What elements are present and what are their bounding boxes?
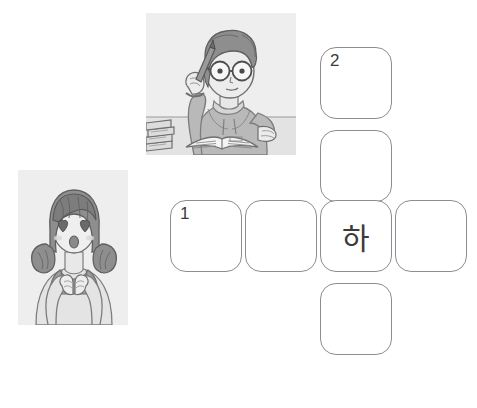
crossword-cell-vertical-2[interactable]: [320, 130, 392, 202]
crossword-cell-horizontal-4[interactable]: [395, 200, 467, 272]
crossword-cell-center-filled[interactable]: 하: [320, 200, 392, 272]
crossword-cell-vertical-4[interactable]: [320, 283, 392, 355]
cell-letter: [246, 201, 316, 271]
cell-letter: [321, 48, 391, 118]
cell-letter: [321, 131, 391, 201]
crossword-cell-horizontal-2[interactable]: [245, 200, 317, 272]
crossword-cell-1-across-start[interactable]: 1: [170, 200, 242, 272]
cell-letter: [396, 201, 466, 271]
illustration-girl-heart-eyes: [18, 170, 128, 325]
cell-letter: [321, 284, 391, 354]
cell-letter: 하: [321, 201, 391, 271]
puzzle-page: 2 하 1: [0, 0, 477, 408]
illustration-studying-student: [146, 13, 296, 155]
crossword-cell-2-down-start[interactable]: 2: [320, 47, 392, 119]
cell-letter: [171, 201, 241, 271]
